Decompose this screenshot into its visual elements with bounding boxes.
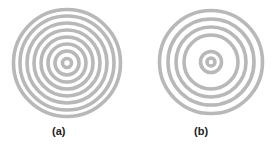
- ring-b-4: [176, 27, 246, 97]
- ring-b-1: [207, 58, 215, 66]
- ring-a-5: [34, 30, 100, 96]
- ring-b-3: [184, 35, 238, 89]
- figure-a: (a): [0, 0, 136, 150]
- ring-a-2: [55, 51, 79, 75]
- figure-label-a: (a): [52, 125, 65, 138]
- ring-b-2: [201, 52, 222, 73]
- ring-a-8: [14, 10, 121, 117]
- figure-label-b: (b): [194, 125, 208, 138]
- concentric-rings-a: [0, 0, 136, 150]
- figure-b: (b): [136, 0, 273, 150]
- ring-a-1: [63, 59, 72, 68]
- ring-b-5: [168, 19, 254, 105]
- ring-a-6: [27, 23, 107, 103]
